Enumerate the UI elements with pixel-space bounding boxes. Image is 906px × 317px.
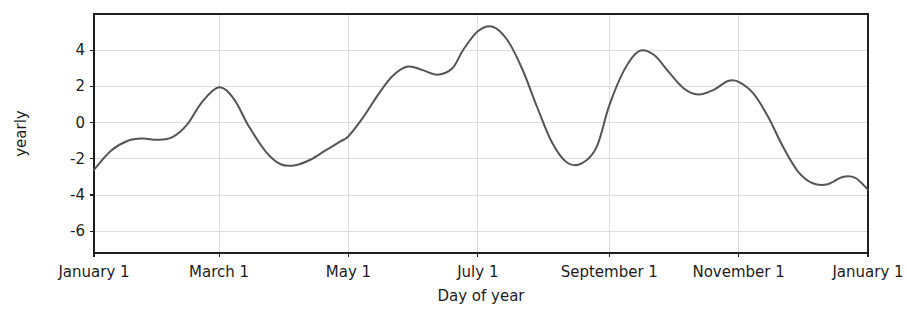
x-tick-label: January 1 bbox=[57, 263, 129, 281]
y-tick-label: 0 bbox=[75, 114, 85, 132]
x-tick-label: March 1 bbox=[189, 263, 249, 281]
x-tick-label: September 1 bbox=[561, 263, 658, 281]
yearly-seasonality-chart: January 1March 1May 1July 1September 1No… bbox=[0, 0, 906, 317]
chart-svg: January 1March 1May 1July 1September 1No… bbox=[0, 0, 906, 317]
y-tick-label: -4 bbox=[70, 186, 85, 204]
x-tick-label: May 1 bbox=[326, 263, 371, 281]
y-tick-label: 4 bbox=[75, 41, 85, 59]
y-tick-label: -2 bbox=[70, 150, 85, 168]
y-tick-label: -6 bbox=[70, 222, 85, 240]
y-axis-title: yearly bbox=[12, 110, 30, 157]
x-axis-title: Day of year bbox=[437, 287, 525, 305]
y-tick-label: 2 bbox=[75, 77, 85, 95]
x-tick-label: January 1 bbox=[831, 263, 903, 281]
x-tick-label: July 1 bbox=[456, 263, 498, 281]
x-tick-label: November 1 bbox=[692, 263, 784, 281]
